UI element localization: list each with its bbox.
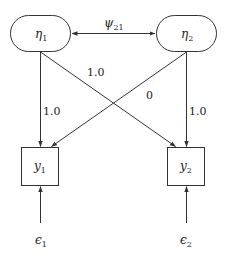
edge-eta2-y1 bbox=[52, 52, 187, 147]
label-eps1: ϵ1 bbox=[35, 233, 47, 249]
edge-eta1-y2 bbox=[41, 52, 176, 147]
label-eps2: ϵ2 bbox=[180, 233, 192, 249]
label-psi21: ψ21 bbox=[104, 16, 124, 32]
label-eta1-y1: 1.0 bbox=[43, 105, 61, 118]
label-eta1-y2: 1.0 bbox=[87, 66, 105, 79]
label-eta2-y2: 1.0 bbox=[189, 105, 207, 118]
label-eta2-y1: 0 bbox=[146, 89, 153, 102]
path-diagram: η1 η2 y1 y2 ϵ1 ϵ2 ψ21 1.0 0 1.0 1.0 bbox=[0, 0, 226, 263]
